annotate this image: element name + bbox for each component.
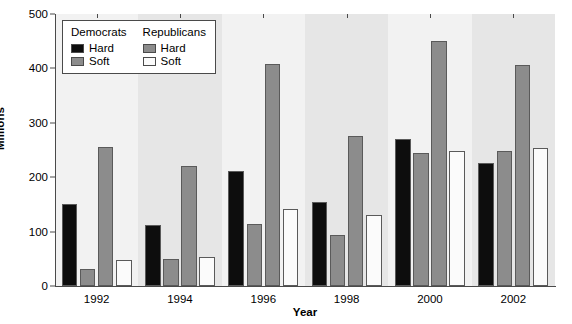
legend-column: DemocratsHardSoft [71, 26, 127, 67]
bar [515, 65, 531, 286]
bar [98, 147, 114, 286]
bar [478, 163, 494, 286]
x-axis-title: Year [55, 306, 555, 318]
x-tick-label: 2000 [417, 286, 443, 305]
legend-item-label: Hard [161, 42, 186, 54]
legend-column-header: Republicans [143, 26, 206, 38]
legend-item-label: Soft [89, 55, 109, 67]
legend-item-label: Soft [161, 55, 181, 67]
x-tick-mark [430, 14, 431, 18]
legend-item: Soft [143, 55, 206, 67]
bar [265, 64, 281, 286]
legend-item: Soft [71, 55, 127, 67]
bar [228, 171, 244, 286]
bar [366, 215, 382, 286]
bar [413, 153, 429, 286]
x-tick-mark [347, 14, 348, 18]
chart-figure: Millions 0100200300400500 19921994199619… [0, 0, 572, 324]
legend-swatch-icon [71, 57, 84, 66]
legend-column: RepublicansHardSoft [143, 26, 206, 67]
legend-item-label: Hard [89, 42, 114, 54]
x-tick-label: 1992 [84, 286, 110, 305]
x-tick-mark [513, 14, 514, 18]
bar-group: 1998 [305, 14, 388, 286]
bar-group: 2000 [388, 14, 471, 286]
bar [348, 136, 364, 286]
y-axis-line [55, 14, 56, 286]
bar [62, 204, 78, 286]
bar [247, 224, 263, 286]
x-axis-line [55, 286, 556, 287]
legend: DemocratsHardSoftRepublicansHardSoft [62, 20, 216, 74]
x-tick-mark [97, 14, 98, 18]
bar [497, 151, 513, 286]
bar-group: 1996 [222, 14, 305, 286]
x-tick-label: 2002 [501, 286, 527, 305]
bar [181, 166, 197, 286]
bar [80, 269, 96, 286]
legend-swatch-icon [143, 57, 156, 66]
legend-item: Hard [71, 42, 127, 54]
x-tick-mark [180, 14, 181, 18]
bar [199, 257, 215, 286]
bar [449, 151, 465, 286]
bar-group: 2002 [472, 14, 555, 286]
x-tick-label: 1996 [251, 286, 277, 305]
x-tick-label: 1998 [334, 286, 360, 305]
y-axis: Millions [0, 0, 55, 286]
bar [533, 148, 549, 286]
legend-swatch-icon [71, 44, 84, 53]
bar [431, 41, 447, 286]
bar [330, 235, 346, 286]
legend-swatch-icon [143, 44, 156, 53]
legend-item: Hard [143, 42, 206, 54]
bar [312, 202, 328, 286]
x-tick-label: 1994 [167, 286, 193, 305]
y-axis-title: Millions [0, 107, 6, 150]
bar [145, 225, 161, 286]
bar [283, 209, 299, 286]
x-tick-mark [263, 14, 264, 18]
bar [395, 139, 411, 286]
bar [116, 260, 132, 286]
legend-column-header: Democrats [71, 26, 127, 38]
bar [163, 259, 179, 286]
